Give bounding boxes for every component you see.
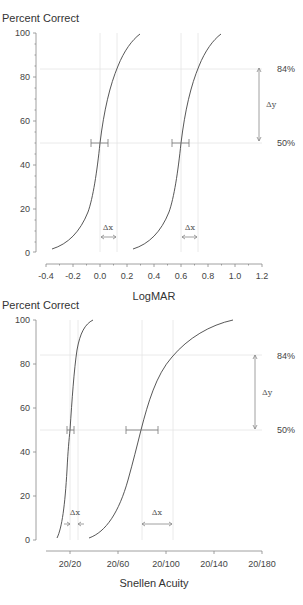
top-delta-y-label: Δy bbox=[266, 100, 277, 109]
svg-text:20: 20 bbox=[20, 204, 30, 214]
bottom-x-tick-labels: 20/20 20/60 20/100 20/140 20/180 bbox=[59, 559, 276, 569]
bottom-delta-x-label-2: Δx bbox=[152, 508, 163, 517]
svg-text:40: 40 bbox=[20, 160, 30, 170]
svg-text:0: 0 bbox=[25, 248, 30, 258]
svg-text:0.2: 0.2 bbox=[121, 271, 134, 281]
svg-text:100: 100 bbox=[15, 315, 30, 325]
figure: Percent Correct bbox=[0, 0, 303, 605]
top-delta-x-arrow-1 bbox=[101, 235, 116, 239]
svg-text:1.2: 1.2 bbox=[256, 271, 269, 281]
svg-text:20/180: 20/180 bbox=[248, 559, 276, 569]
bottom-delta-x-arrow-1 bbox=[64, 522, 84, 526]
top-x-ticks bbox=[46, 264, 262, 267]
bottom-chart: Percent Correct 100 80 60 40 20 0 bbox=[2, 299, 295, 589]
bottom-delta-x-arrow-2 bbox=[142, 522, 172, 526]
bottom-curve-1 bbox=[57, 320, 93, 538]
top-delta-x-label-1: Δx bbox=[103, 223, 114, 232]
top-y-ticks bbox=[33, 33, 36, 252]
top-50-percent-label: 50% bbox=[277, 138, 295, 148]
bottom-84-percent-label: 84% bbox=[277, 351, 295, 361]
svg-text:80: 80 bbox=[20, 359, 30, 369]
svg-text:0.4: 0.4 bbox=[148, 271, 161, 281]
bottom-x-axis-label: Snellen Acuity bbox=[119, 577, 189, 589]
top-y-tick-labels: 100 80 60 40 20 0 bbox=[15, 28, 30, 258]
top-delta-x-label-2: Δx bbox=[185, 223, 196, 232]
svg-text:80: 80 bbox=[20, 72, 30, 82]
bottom-y-tick-labels: 100 80 60 40 20 0 bbox=[15, 315, 30, 545]
svg-text:-0.2: -0.2 bbox=[65, 271, 81, 281]
top-delta-y-arrow bbox=[257, 68, 261, 141]
svg-text:20/20: 20/20 bbox=[59, 559, 82, 569]
bottom-delta-x-label-1: Δx bbox=[70, 508, 81, 517]
svg-text:40: 40 bbox=[20, 447, 30, 457]
bottom-curve-2 bbox=[89, 320, 233, 538]
bottom-delta-y-arrow bbox=[253, 355, 257, 429]
top-x-axis-label: LogMAR bbox=[133, 290, 176, 302]
bottom-y-ticks bbox=[33, 320, 36, 540]
svg-text:20: 20 bbox=[20, 491, 30, 501]
svg-text:60: 60 bbox=[20, 116, 30, 126]
svg-text:60: 60 bbox=[20, 403, 30, 413]
top-x-tick-labels: -0.4 -0.2 0.0 0.2 0.4 0.6 0.8 1.0 1.2 bbox=[38, 271, 268, 281]
bottom-delta-y-label: Δy bbox=[262, 388, 273, 397]
svg-text:20/100: 20/100 bbox=[152, 559, 180, 569]
svg-text:0.6: 0.6 bbox=[175, 271, 188, 281]
top-delta-x-arrow-2 bbox=[182, 235, 197, 239]
top-curve-2 bbox=[133, 34, 221, 249]
bottom-y-axis-label: Percent Correct bbox=[2, 299, 79, 311]
svg-text:0.8: 0.8 bbox=[202, 271, 215, 281]
top-chart: Percent Correct bbox=[2, 12, 295, 302]
top-y-axis-label: Percent Correct bbox=[2, 12, 79, 24]
svg-text:100: 100 bbox=[15, 28, 30, 38]
svg-text:-0.4: -0.4 bbox=[38, 271, 54, 281]
svg-text:1.0: 1.0 bbox=[229, 271, 242, 281]
svg-text:20/60: 20/60 bbox=[107, 559, 130, 569]
top-curve-1 bbox=[52, 34, 140, 249]
bottom-50-percent-label: 50% bbox=[277, 425, 295, 435]
svg-text:20/140: 20/140 bbox=[200, 559, 228, 569]
svg-text:0.0: 0.0 bbox=[94, 271, 107, 281]
top-84-percent-label: 84% bbox=[277, 64, 295, 74]
svg-text:0: 0 bbox=[25, 535, 30, 545]
bottom-x-ticks bbox=[70, 551, 262, 554]
